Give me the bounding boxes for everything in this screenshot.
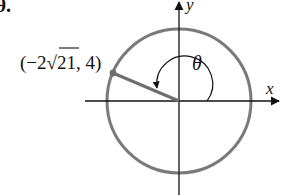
angle-label: θ bbox=[192, 52, 202, 74]
y-axis-label: y bbox=[184, 0, 194, 14]
point-label-open: (−2 bbox=[20, 52, 47, 74]
point-marker bbox=[110, 70, 117, 77]
point-label-rest: , 4) bbox=[76, 52, 101, 74]
point-label-radical: √ bbox=[47, 52, 58, 73]
unit-circle-diagram: 9. θ x y (−2√21, 4) bbox=[0, 0, 281, 195]
x-axis-label: x bbox=[265, 79, 274, 98]
svg-text:(−2√21, 4): (−2√21, 4) bbox=[20, 52, 101, 74]
point-label: (−2√21, 4) bbox=[20, 48, 101, 74]
terminal-side bbox=[113, 73, 179, 101]
point-label-radicand: 21 bbox=[57, 52, 76, 73]
problem-number: 9. bbox=[0, 0, 11, 16]
